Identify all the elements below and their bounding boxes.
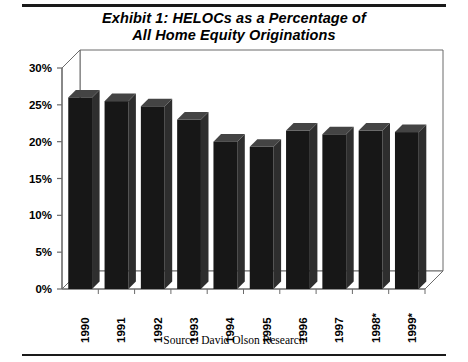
chart-canvas (0, 0, 468, 362)
bar-1992 (141, 99, 172, 289)
bar-1998 (359, 123, 390, 289)
bar-1993 (177, 112, 208, 289)
bar-1994 (213, 134, 244, 289)
bar-1999 (395, 125, 426, 289)
bar-1996 (286, 123, 317, 289)
bar-1997 (322, 127, 353, 289)
bar-1990 (68, 90, 99, 289)
bar-1995 (250, 139, 281, 289)
bar-chart: 0%5%10%15%20%25%30% 19901991199219931994… (0, 0, 468, 362)
bar-1991 (105, 94, 136, 289)
bottom-divider-rule (22, 354, 446, 356)
source-note: Source: David Olson Research (0, 334, 468, 346)
